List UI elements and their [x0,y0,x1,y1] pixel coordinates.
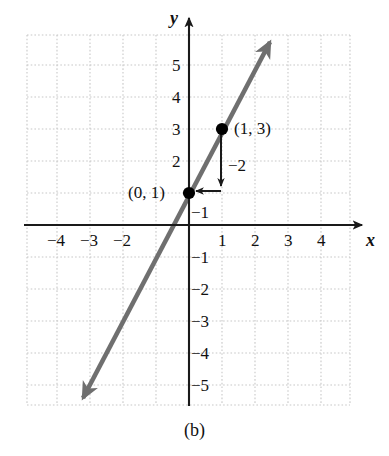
y-tick-label-2: 2 [172,153,181,170]
x-tick-label-neg4: −4 [47,232,65,249]
y-tick-label-neg2: −2 [191,281,209,298]
point-label-0-1: (0, 1) [128,184,165,201]
x-tick-label-3: 3 [284,232,293,249]
y-axis-label: y [170,9,178,27]
x-axis-label: x [366,231,375,249]
y-tick-label-neg4: −4 [191,345,209,362]
figure-caption: (b) [0,420,389,441]
y-tick-label-3: 3 [172,121,181,138]
point-label-1-3: (1, 3) [234,120,271,137]
graph-figure: y x −4 −3 −2 1 2 3 4 5 4 3 2 −1 −2 −3 −4… [0,0,389,456]
y-tick-label-neg5: −5 [191,377,209,394]
x-tick-label-neg3: −3 [80,232,98,249]
plotted-point-0-1 [183,187,195,199]
plotted-point-1-3 [216,123,228,135]
x-tick-label-2: 2 [251,232,260,249]
x-tick-label-1: 1 [218,232,227,249]
y-tick-label-5: 5 [172,57,181,74]
y-tick-label-4: 4 [172,89,181,106]
x-tick-label-neg2: −2 [113,232,131,249]
rise-annotation-label: −2 [228,157,246,174]
x-tick-label-4: 4 [317,232,326,249]
run-annotation-label: −1 [191,204,209,221]
y-tick-label-neg3: −3 [191,313,209,330]
y-tick-label-neg1: −1 [191,249,209,266]
